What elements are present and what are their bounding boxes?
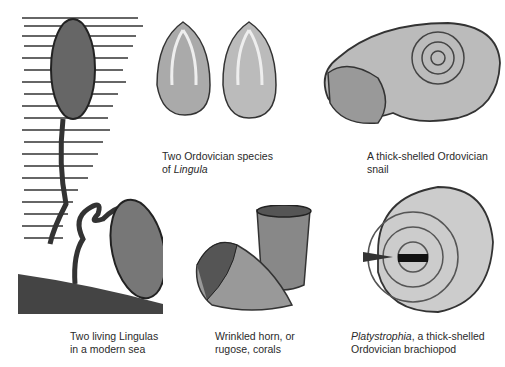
caption-living-lingulas: Two living Lingulas in a modern sea bbox=[70, 330, 158, 356]
platystrophia-illustration bbox=[358, 182, 498, 317]
living-lingulas-illustration bbox=[18, 14, 163, 314]
rugose-corals-illustration bbox=[192, 205, 332, 315]
caption-rugose-corals: Wrinkled horn, or rugose, corals bbox=[215, 330, 295, 356]
ordovician-lingula-illustration bbox=[152, 20, 282, 120]
caption-ordovician-snail: A thick-shelled Ordovician snail bbox=[367, 150, 488, 176]
caption-ordovician-lingula: Two Ordovician species of Lingula bbox=[162, 150, 273, 176]
ordovician-snail-illustration bbox=[318, 18, 503, 130]
caption-platystrophia: Platystrophia, a thick-shelled Ordovicia… bbox=[351, 330, 485, 356]
